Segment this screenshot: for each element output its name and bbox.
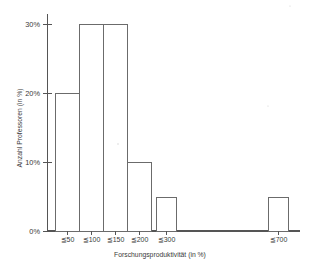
scan-speck bbox=[289, 5, 290, 6]
scan-speck bbox=[117, 143, 118, 144]
chart-container: 30% 20% 10% 0% Anzahl Professoren (in %)… bbox=[0, 0, 318, 270]
x-tick-label-le-700: ≦700 bbox=[270, 236, 288, 243]
bar-le-300 bbox=[157, 197, 177, 231]
y-tick-label-20: 20% bbox=[25, 89, 40, 98]
x-tick-label-le-100: ≦100 bbox=[83, 236, 101, 243]
x-tick-label-le-200: ≦200 bbox=[131, 236, 149, 243]
y-tick-label-10: 10% bbox=[25, 158, 40, 167]
x-axis-title: Forschungsproduktivität (in %) bbox=[114, 251, 206, 259]
bar-le-150 bbox=[104, 25, 128, 232]
bar-le-200 bbox=[128, 163, 152, 232]
bar-le-700 bbox=[269, 197, 289, 231]
bar-le-100 bbox=[80, 25, 104, 232]
y-tick-label-30: 30% bbox=[25, 20, 40, 29]
bar-chart-figure: 30% 20% 10% 0% Anzahl Professoren (in %)… bbox=[0, 0, 318, 270]
bar-le-50 bbox=[56, 94, 80, 232]
x-tick-label-le-150: ≦150 bbox=[107, 236, 125, 243]
x-tick-label-le-50: ≦50 bbox=[61, 236, 75, 243]
x-tick-label-le-300: ≦300 bbox=[158, 236, 176, 243]
y-axis-title: Anzahl Professoren (in %) bbox=[16, 89, 24, 168]
y-tick-label-0: 0% bbox=[29, 227, 40, 236]
scan-speck bbox=[267, 105, 268, 106]
